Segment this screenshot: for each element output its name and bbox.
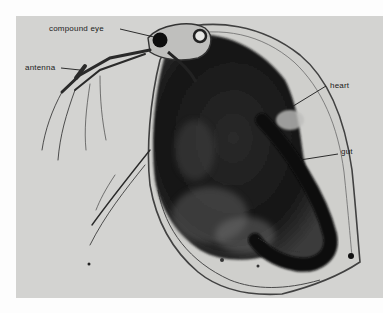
antenna-drawing bbox=[42, 50, 150, 245]
heart-region bbox=[276, 110, 304, 130]
heart-label: heart bbox=[330, 82, 349, 90]
specimen-drawing bbox=[16, 16, 383, 298]
gut-label: gut bbox=[341, 148, 353, 156]
compound-eye-spot bbox=[153, 33, 168, 48]
compound-eye-leader bbox=[120, 29, 154, 37]
antenna-leader bbox=[61, 68, 80, 70]
daphnia-micrograph bbox=[16, 16, 383, 298]
antenna-label: antenna bbox=[25, 64, 55, 72]
compound-eye-label: compound eye bbox=[49, 25, 104, 33]
